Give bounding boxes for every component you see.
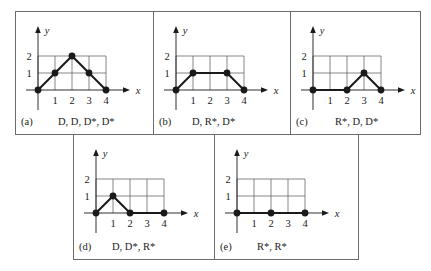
svg-text:2: 2 [26,51,31,62]
lattice-point [110,193,117,200]
svg-text:1: 1 [110,218,115,229]
svg-text:3: 3 [285,218,290,229]
svg-text:1: 1 [52,95,57,106]
panel-caption: (a) D, D, D*, D* [16,116,155,130]
step-sequence: D, D, D*, D* [58,116,115,127]
svg-text:4: 4 [103,95,109,106]
x-arrow-icon [398,87,405,93]
svg-text:4: 4 [161,218,167,229]
svg-text:2: 2 [69,95,74,106]
lattice-point [241,87,248,94]
svg-text:y: y [182,25,188,36]
svg-text:2: 2 [268,218,273,229]
panel-caption: (c) R*, D, D* [291,116,422,130]
panel-c: xy123412 (c) R*, D, D* [290,11,421,135]
x-arrow-icon [322,210,329,216]
panel-tag: (b) [159,116,171,127]
svg-text:x: x [135,85,141,96]
svg-text:4: 4 [241,95,247,106]
svg-text:2: 2 [344,95,349,106]
lattice-point [69,53,76,60]
svg-text:y: y [319,25,325,36]
y-arrow-icon [35,26,41,33]
svg-text:1: 1 [26,68,31,79]
axes: xy123412 [84,148,199,233]
svg-text:y: y [243,148,249,159]
svg-text:3: 3 [361,95,366,106]
panel-tag: (d) [79,241,91,252]
svg-text:4: 4 [378,95,384,106]
svg-text:x: x [334,208,340,219]
y-arrow-icon [173,26,179,33]
svg-text:1: 1 [190,95,195,106]
lattice-point [310,87,317,94]
svg-text:x: x [410,85,416,96]
x-arrow-icon [181,210,188,216]
svg-text:2: 2 [207,95,212,106]
lattice-point [35,87,42,94]
panel-tag: (a) [21,116,33,127]
svg-text:2: 2 [164,51,169,62]
step-sequence: D, D*, R* [112,241,155,252]
lattice-point [302,210,309,217]
lattice-point [344,87,351,94]
svg-text:2: 2 [127,218,132,229]
axes: xy123412 [301,25,416,110]
y-arrow-icon [234,149,240,156]
lattice-point [161,210,168,217]
lattice-point [127,210,134,217]
y-arrow-icon [310,26,316,33]
svg-text:1: 1 [327,95,332,106]
y-arrow-icon [93,149,99,156]
svg-text:1: 1 [251,218,256,229]
x-arrow-icon [123,87,130,93]
panel-d: xy123412 (d) D, D*, R* [73,134,215,260]
svg-text:x: x [193,208,199,219]
grid [313,56,381,90]
lattice-point [173,87,180,94]
step-sequence: R*, R* [257,241,287,252]
svg-text:1: 1 [84,191,89,202]
svg-text:1: 1 [301,68,306,79]
lattice-point [224,70,231,77]
lattice-point [361,70,368,77]
lattice-point [234,210,241,217]
svg-text:y: y [44,25,50,36]
lattice-point [52,70,59,77]
lattice-point [190,70,197,77]
step-sequence: R*, D, D* [335,116,378,127]
panel-b: xy123412 (b) D, R*, D* [153,11,291,135]
svg-text:4: 4 [302,218,308,229]
svg-text:x: x [273,85,279,96]
lattice-point [378,87,385,94]
panel-e: xy123412 (e) R*, R* [214,134,359,260]
panel-caption: (b) D, R*, D* [154,116,292,130]
svg-text:2: 2 [301,51,306,62]
grid [237,179,305,213]
lattice-point [86,70,93,77]
svg-text:2: 2 [225,174,230,185]
panel-a: xy123412 (a) D, D, D*, D* [15,11,154,135]
panel-caption: (d) D, D*, R* [74,241,216,255]
svg-text:1: 1 [164,68,169,79]
svg-text:3: 3 [224,95,229,106]
lattice-point [93,210,100,217]
lattice-point [268,210,275,217]
svg-text:1: 1 [225,191,230,202]
panel-tag: (c) [296,116,308,127]
svg-text:2: 2 [84,174,89,185]
axes: xy123412 [164,25,279,110]
svg-text:3: 3 [86,95,91,106]
lattice-point [103,87,110,94]
x-arrow-icon [261,87,268,93]
svg-text:y: y [102,148,108,159]
svg-text:3: 3 [144,218,149,229]
axes: xy123412 [225,148,340,233]
grid [96,179,164,213]
panel-tag: (e) [220,241,232,252]
panel-caption: (e) R*, R* [215,241,360,255]
grid [38,56,106,90]
step-sequence: D, R*, D* [192,116,235,127]
